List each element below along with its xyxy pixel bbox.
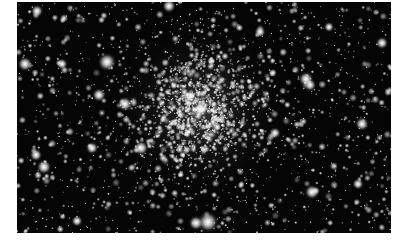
starfield-canvas (17, 2, 391, 233)
page: Dense globular star cluster with a brigh… (0, 0, 407, 244)
star-cluster-photo (17, 2, 391, 233)
